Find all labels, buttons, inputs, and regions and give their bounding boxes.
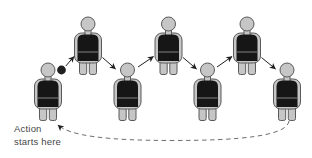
ball [57,66,66,75]
people-group [35,17,301,121]
person-4 [155,17,182,75]
person-5 [194,63,221,121]
person-2 [75,17,102,75]
pass-arrow-1 [66,57,74,67]
head [41,63,55,77]
vest [78,35,99,62]
loop-back-arrow [58,121,289,141]
head [162,17,176,31]
action-chain-diagram: Action starts here [0,0,312,158]
vest [277,81,298,108]
caption-line-1: Action [14,123,42,134]
person-6 [234,17,261,75]
head [240,17,254,31]
caption-line-2: starts here [14,136,61,147]
pass-arrow-6 [262,58,276,70]
caption: Action starts here [14,123,61,147]
pass-arrow-3 [138,57,154,68]
pass-arrow-5 [217,57,232,68]
vest [117,81,138,108]
head [81,17,95,31]
vest [197,81,218,108]
vest [38,81,59,108]
vest [237,35,258,62]
person-7 [274,63,301,121]
head [121,63,135,77]
head [280,63,294,77]
vest [158,35,179,62]
head [201,63,215,77]
pass-arrow-4 [183,58,197,70]
pass-arrow-2 [103,58,116,70]
person-3 [114,63,141,121]
